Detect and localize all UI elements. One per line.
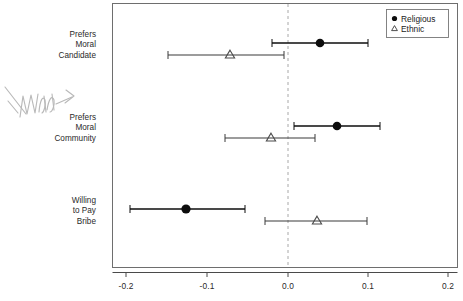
x-tick-label-0-0: 0.0 — [282, 281, 294, 291]
x-tick-label-neg-0-1: -0.1 — [200, 281, 215, 291]
category-label-prefers-moral-community: Prefers Moral Community — [24, 113, 96, 144]
legend-label-ethnic: Ethnic — [401, 24, 424, 34]
x-tick-label-0-2: 0.2 — [442, 281, 454, 291]
point-estimate-marker-religious — [181, 204, 190, 213]
x-tick-label-0-1: 0.1 — [362, 281, 374, 291]
legend-marker-religious-icon — [392, 16, 397, 21]
x-tick-label-neg-0-2: -0.2 — [119, 281, 134, 291]
category-label-prefers-moral-candidate: Prefers Moral Candidate — [24, 30, 96, 61]
point-estimate-marker-religious — [316, 39, 325, 48]
x-axis-ticks — [126, 273, 448, 278]
category-label-willing-to-pay-bribe: Willing to Pay Bribe — [24, 196, 96, 227]
point-estimate-marker-religious — [333, 122, 342, 131]
legend: Religious Ethnic — [387, 10, 449, 38]
legend-label-religious: Religious — [401, 14, 435, 24]
forest-plot-figure: Religious Ethnic Prefers Moral Candidate… — [0, 0, 463, 301]
